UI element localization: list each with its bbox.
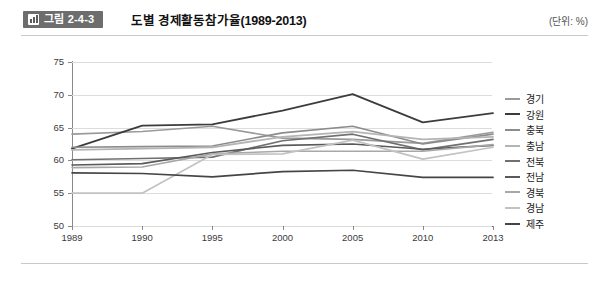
legend-item-전남[interactable]: 전남 (505, 169, 543, 185)
legend-label: 전남 (526, 169, 543, 184)
legend-label: 경남 (526, 200, 543, 215)
legend-swatch-icon (505, 113, 520, 115)
legend-swatch-icon (505, 191, 520, 193)
bar-chart-icon (28, 14, 39, 25)
legend-item-경남[interactable]: 경남 (505, 200, 543, 216)
legend-label: 경기 (526, 91, 543, 106)
legend-swatch-icon (505, 223, 520, 225)
chart-container: 505560657075 198919901995200020052010201… (0, 36, 609, 251)
legend-item-경북[interactable]: 경북 (505, 185, 543, 201)
legend-item-제주[interactable]: 제주 (505, 216, 543, 232)
legend-swatch-icon (505, 207, 520, 209)
legend-item-충북[interactable]: 충북 (505, 122, 543, 138)
footer-divider (21, 263, 588, 264)
figure-number-label: 그림 2-4-3 (44, 11, 94, 28)
legend-label: 경북 (526, 185, 543, 200)
legend-item-충남[interactable]: 충남 (505, 138, 543, 154)
page-title: 도별 경제활동참가율(1989-2013) (131, 10, 306, 29)
legend-label: 강원 (526, 107, 543, 122)
chart-legend: 경기강원충북충남전북전남경북경남제주 (505, 91, 543, 231)
legend-label: 충북 (526, 122, 543, 137)
figure-card: 그림 2-4-3 도별 경제활동참가율(1989-2013) (단위: %) 5… (0, 0, 609, 281)
legend-swatch-icon (505, 145, 520, 147)
legend-item-강원[interactable]: 강원 (505, 107, 543, 123)
legend-swatch-icon (505, 129, 520, 131)
unit-note: (단위: %) (549, 13, 588, 28)
legend-label: 충남 (526, 138, 543, 153)
legend-item-전북[interactable]: 전북 (505, 153, 543, 169)
legend-item-경기[interactable]: 경기 (505, 91, 543, 107)
figure-number-badge: 그림 2-4-3 (23, 11, 103, 28)
legend-swatch-icon (505, 160, 520, 162)
legend-swatch-icon (505, 176, 520, 178)
line-series-제주 (72, 170, 493, 177)
legend-swatch-icon (505, 98, 520, 100)
legend-label: 제주 (526, 216, 543, 231)
legend-label: 전북 (526, 154, 543, 169)
figure-header: 그림 2-4-3 도별 경제활동참가율(1989-2013) (단위: %) (0, 0, 609, 36)
